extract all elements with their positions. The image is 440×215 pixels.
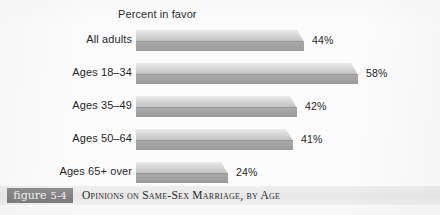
category-label: All adults (86, 33, 132, 45)
category-label: Ages 18–34 (72, 66, 132, 78)
bar-row: Ages 18–34 58% (0, 63, 440, 84)
figure-badge-number: 5-4 (51, 191, 67, 201)
bar-row: Ages 65+ over 24% (0, 162, 440, 183)
bar-track (136, 129, 293, 150)
bar-row: Ages 35–49 42% (0, 96, 440, 117)
figure-badge-word: figure (13, 190, 46, 201)
bar-track (136, 63, 358, 84)
bar-value-label: 24% (236, 166, 257, 178)
figure-number-badge: figure 5-4 (7, 188, 73, 203)
bar-value-label: 42% (305, 100, 326, 112)
bar-ages-50-64 (136, 129, 293, 150)
bar-value-label: 41% (301, 133, 322, 145)
bar-row: Ages 50–64 41% (0, 129, 440, 150)
bar-ages-65-over (136, 162, 228, 183)
bar-all-adults (136, 30, 304, 51)
figure-container: Percent in favor All adults 44% Ages 18–… (0, 0, 440, 215)
category-label: Ages 50–64 (72, 132, 132, 144)
bar-row: All adults 44% (0, 30, 440, 51)
figure-caption: Opinions on Same-Sex Marriage, by Age (82, 189, 280, 201)
bar-value-label: 44% (312, 34, 333, 46)
bar-value-label: 58% (366, 67, 387, 79)
bar-chart-plot-area: All adults 44% Ages 18–34 58% Ages 35–49 (0, 30, 440, 182)
category-label: Ages 65+ over (59, 165, 132, 177)
category-label: Ages 35–49 (72, 99, 132, 111)
bar-ages-35-49 (136, 96, 297, 117)
bar-track (136, 30, 304, 51)
chart-title: Percent in favor (118, 8, 197, 20)
bar-track (136, 162, 228, 183)
bar-ages-18-34 (136, 63, 358, 84)
bar-track (136, 96, 297, 117)
